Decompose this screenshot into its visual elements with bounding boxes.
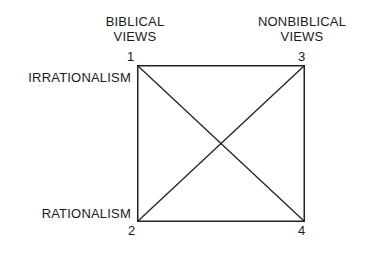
corner-label-3: 3: [298, 50, 305, 64]
column-heading-biblical-line2: VIEWS: [106, 29, 165, 44]
corner-label-1: 1: [127, 50, 134, 64]
diagram-canvas: BIBLICAL VIEWS NONBIBLICAL VIEWS IRRATIO…: [0, 0, 369, 253]
row-heading-irrationalism: IRRATIONALISM: [28, 70, 131, 85]
column-heading-biblical: BIBLICAL VIEWS: [106, 14, 165, 44]
row-heading-rationalism: RATIONALISM: [42, 206, 131, 221]
corner-label-2: 2: [128, 224, 135, 238]
corner-label-4: 4: [298, 224, 305, 238]
column-heading-nonbiblical-line1: NONBIBLICAL: [258, 14, 346, 29]
column-heading-biblical-line1: BIBLICAL: [106, 14, 165, 29]
column-heading-nonbiblical: NONBIBLICAL VIEWS: [258, 14, 346, 44]
square-diagram: [137, 65, 305, 222]
column-heading-nonbiblical-line2: VIEWS: [258, 29, 346, 44]
